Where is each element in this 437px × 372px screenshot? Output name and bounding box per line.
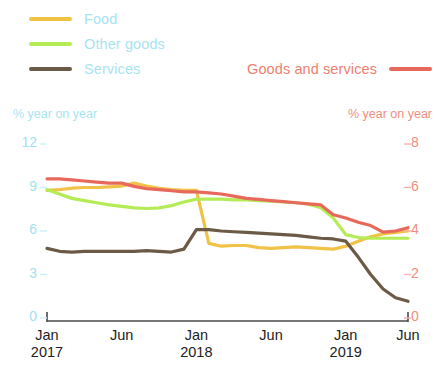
chart-figure: Food Other goods Services Goods and serv… — [0, 0, 437, 372]
x-tick-month: Jan — [311, 327, 381, 344]
axis-layer — [40, 144, 411, 322]
x-axis-tick-label: Jun — [87, 327, 157, 344]
series-line-food — [47, 183, 408, 249]
x-axis-ticks: Jan2017JunJan2018JunJan2019Jun — [0, 327, 437, 372]
x-tick-month: Jan — [12, 327, 82, 344]
x-tick-year: 2018 — [161, 344, 231, 361]
x-tick-month: Jan — [161, 327, 231, 344]
series-layer — [47, 179, 408, 302]
x-axis-line — [47, 312, 408, 322]
x-axis-tick-label: Jan2019 — [311, 327, 381, 361]
x-axis-tick-label: Jan2018 — [161, 327, 231, 361]
x-tick-month: Jun — [236, 327, 306, 344]
x-tick-month: Jun — [373, 327, 437, 344]
chart-svg — [0, 0, 437, 372]
x-tick-year: 2019 — [311, 344, 381, 361]
x-tick-year: 2017 — [12, 344, 82, 361]
x-tick-month: Jun — [87, 327, 157, 344]
series-line-services — [47, 230, 408, 302]
x-axis-tick-label: Jun — [373, 327, 437, 344]
x-axis-tick-label: Jun — [236, 327, 306, 344]
x-axis-tick-label: Jan2017 — [12, 327, 82, 361]
plot-area — [0, 0, 437, 372]
